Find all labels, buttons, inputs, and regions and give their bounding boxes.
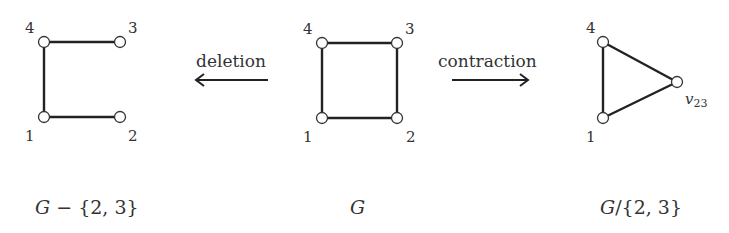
node-label-4: 4 [25, 19, 35, 37]
contraction-operation: contraction [438, 51, 537, 86]
caption-contracted: G/{2, 3} [600, 196, 682, 218]
node-2 [392, 113, 403, 124]
caption-deleted-graph: G [35, 196, 50, 218]
contraction-label: contraction [438, 51, 537, 71]
node-label-v23: v23 [685, 90, 707, 110]
node-v23 [672, 77, 683, 88]
node-label-1: 1 [25, 127, 35, 145]
node-label-v23-sub: 23 [693, 97, 707, 110]
node-4 [39, 37, 50, 48]
node-1 [39, 112, 50, 123]
node-3 [115, 37, 126, 48]
graph-operations-diagram: 4 3 1 2 G − {2, 3} deletion 4 3 1 2 G co… [0, 0, 729, 233]
node-label-4: 4 [303, 20, 313, 38]
node-label-1: 1 [303, 128, 313, 146]
node-label-4: 4 [586, 19, 596, 37]
node-1 [598, 113, 609, 124]
node-label-2: 2 [128, 127, 138, 145]
node-3 [392, 38, 403, 49]
node-4 [598, 37, 609, 48]
node-4 [317, 38, 328, 49]
caption-original: G [350, 196, 365, 218]
caption-contracted-graph: G [600, 196, 615, 218]
edge-1-v23 [603, 82, 677, 118]
deletion-label: deletion [196, 51, 266, 71]
node-label-2: 2 [406, 128, 416, 146]
edge-4-v23 [603, 42, 677, 82]
deletion-operation: deletion [196, 51, 268, 86]
caption-contracted-set: /{2, 3} [615, 196, 682, 218]
graph-contracted: 4 1 v23 G/{2, 3} [586, 19, 707, 218]
graph-deleted: 4 3 1 2 G − {2, 3} [25, 19, 139, 218]
node-label-1: 1 [586, 128, 596, 146]
graph-original: 4 3 1 2 G [303, 20, 416, 218]
caption-deleted: G − {2, 3} [35, 196, 139, 218]
node-label-3: 3 [128, 19, 138, 37]
caption-deleted-set: − {2, 3} [50, 196, 138, 218]
node-label-3: 3 [405, 20, 415, 38]
node-1 [317, 113, 328, 124]
node-2 [115, 112, 126, 123]
